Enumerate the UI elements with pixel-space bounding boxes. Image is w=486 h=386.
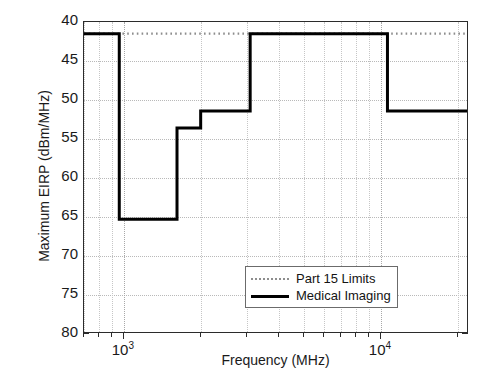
y-tick-mark [462,333,468,334]
x-tick-mark [111,333,112,337]
y-tick-label: 65 [38,206,78,223]
y-tick-label: 45 [38,50,78,67]
x-tick-mark [246,333,247,337]
solid-line-swatch-icon [251,291,289,301]
y-tick-label: 80 [38,323,78,340]
eirp-spectrum-mask-chart: Maximum EIRP (dBm/MHz) Frequency (MHz) 4… [0,0,486,386]
x-tick-mark [340,333,341,337]
legend-item-part-15-limits: Part 15 Limits [251,270,391,287]
legend-label: Part 15 Limits [296,271,375,286]
y-tick-label: 60 [38,167,78,184]
y-tick-label: 40 [38,11,78,28]
x-tick-mark [278,333,279,337]
x-tick-mark [83,333,84,337]
x-tick-mark [355,333,356,337]
chart-legend: Part 15 Limits Medical Imaging [245,266,398,308]
legend-label: Medical Imaging [296,288,391,303]
x-axis-title: Frequency (MHz) [83,352,468,368]
x-tick-mark [303,333,304,337]
x-tick-mark [123,333,124,339]
x-tick-mark [323,333,324,337]
y-tick-label: 70 [38,245,78,262]
x-tick-mark [98,333,99,337]
dotted-line-swatch-icon [251,274,289,284]
y-tick-label: 50 [38,89,78,106]
series-line-medical-imaging [84,34,468,220]
x-tick-mark [457,333,458,337]
y-tick-label: 75 [38,284,78,301]
x-tick-label: 103 [112,340,134,358]
x-tick-mark [200,333,201,337]
y-tick-label: 55 [38,128,78,145]
legend-item-medical-imaging: Medical Imaging [251,287,391,304]
x-tick-mark [380,333,381,339]
x-tick-mark [368,333,369,337]
x-tick-label: 104 [369,340,391,358]
